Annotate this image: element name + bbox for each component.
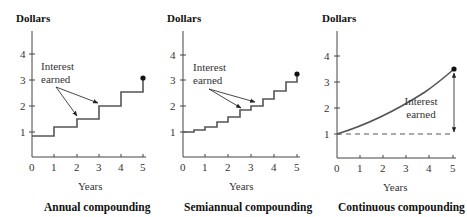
svg-text:4: 4 <box>324 50 330 62</box>
svg-text:0: 0 <box>180 161 186 173</box>
endpoint-dot <box>451 66 456 71</box>
svg-text:3: 3 <box>20 74 26 86</box>
svg-text:5: 5 <box>294 161 300 173</box>
svg-text:1: 1 <box>51 161 57 173</box>
svg-text:3: 3 <box>170 74 176 86</box>
y-ticks: 1 2 3 4 <box>20 48 35 138</box>
y-axis-label: Dollars <box>322 12 357 24</box>
panel-semiannual: Dollars 1 2 3 4 0 1 2 3 4 5 Years <box>167 12 312 214</box>
svg-text:2: 2 <box>225 161 231 173</box>
svg-text:1: 1 <box>357 162 363 174</box>
panel-annual: Dollars 1 2 3 4 0 1 2 3 4 5 Years <box>16 12 151 214</box>
arrow-icon <box>209 89 255 102</box>
endpoint-dot <box>140 75 145 80</box>
annotation-line1: Interest <box>41 60 74 72</box>
svg-text:1: 1 <box>20 126 26 138</box>
x-axis-label: Years <box>78 180 103 192</box>
chart-title: Semiannual compounding <box>184 201 312 214</box>
annotation-line1: Interest <box>405 95 438 107</box>
svg-text:3: 3 <box>248 161 254 173</box>
svg-text:2: 2 <box>380 162 386 174</box>
annotation-line2: earned <box>406 108 436 120</box>
annotation-line2: earned <box>41 73 71 85</box>
svg-text:2: 2 <box>324 102 330 114</box>
svg-text:3: 3 <box>403 162 409 174</box>
svg-text:0: 0 <box>29 161 35 173</box>
arrow-icon <box>209 89 241 108</box>
svg-text:2: 2 <box>20 100 26 112</box>
endpoint-dot <box>294 71 299 76</box>
svg-text:2: 2 <box>170 100 176 112</box>
compounding-figure: Dollars 1 2 3 4 0 1 2 3 4 5 Years <box>0 0 467 217</box>
svg-text:1: 1 <box>324 128 330 140</box>
svg-text:4: 4 <box>426 162 432 174</box>
svg-text:4: 4 <box>170 49 176 61</box>
chart-title: Annual compounding <box>44 201 151 214</box>
y-axis-label: Dollars <box>16 12 51 24</box>
panel-continuous: Dollars 1 2 3 4 0 1 2 3 4 5 Years <box>322 12 465 214</box>
y-axis-label: Dollars <box>167 12 202 24</box>
svg-text:0: 0 <box>334 162 340 174</box>
svg-text:1: 1 <box>202 161 208 173</box>
svg-text:5: 5 <box>140 161 146 173</box>
y-ticks: 1 2 3 4 <box>324 50 340 140</box>
svg-text:4: 4 <box>271 161 277 173</box>
svg-text:5: 5 <box>450 162 456 174</box>
svg-text:2: 2 <box>74 161 80 173</box>
svg-text:3: 3 <box>96 161 102 173</box>
svg-text:4: 4 <box>118 161 124 173</box>
annotation-line1: Interest <box>193 61 226 73</box>
svg-text:1: 1 <box>170 126 176 138</box>
svg-text:4: 4 <box>20 48 26 60</box>
chart-title: Continuous compounding <box>338 201 465 214</box>
svg-text:3: 3 <box>324 76 330 88</box>
annual-step-line <box>32 78 143 136</box>
annotation-line2: earned <box>193 74 223 86</box>
x-axis-label: Years <box>383 181 408 193</box>
x-axis-label: Years <box>229 180 254 192</box>
y-ticks: 1 2 3 4 <box>170 49 186 138</box>
